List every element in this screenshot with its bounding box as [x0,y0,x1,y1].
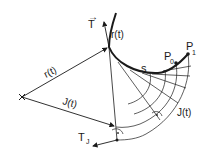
position-vector-arrow [22,48,107,97]
point-p0 [174,61,178,65]
involute-diagram: T → r(t) r(t) J(t) J(t) T J s P 0 P 1 [0,0,207,154]
involute-point-label: J(t) [177,107,191,118]
involute-vector-label: J(t) [61,95,78,110]
svg-text:1: 1 [192,49,196,56]
involute-tangent-label: T [78,131,85,143]
svg-text:→: → [88,11,98,22]
svg-text:J: J [86,138,90,145]
svg-text:0: 0 [170,58,174,65]
point-p1 [186,52,190,56]
involute-tangent-arrow [93,140,117,146]
curve-point-label: r(t) [111,29,124,40]
right-angle-markers [112,112,162,134]
tangent-arrow [104,22,109,47]
arc-length-label: s [141,62,147,74]
